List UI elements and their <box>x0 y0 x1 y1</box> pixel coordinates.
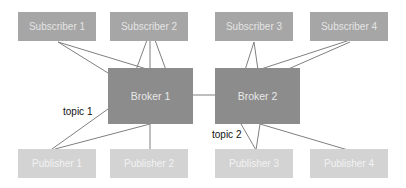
publisher-4-node[interactable]: Publisher 4 <box>310 149 388 178</box>
edge-sub1-broker1 <box>58 42 150 70</box>
publisher-2-label: Publisher 2 <box>124 158 174 169</box>
subscriber-4-label: Subscriber 4 <box>321 21 377 32</box>
subscriber-2-node[interactable]: Subscriber 2 <box>110 12 188 41</box>
publisher-1-node[interactable]: Publisher 1 <box>18 149 96 178</box>
edge-pub3-broker2 <box>241 124 256 150</box>
publisher-1-label: Publisher 1 <box>32 158 82 169</box>
broker-2-label: Broker 2 <box>238 90 278 102</box>
broker-1-node[interactable]: Broker 1 <box>108 68 193 124</box>
publisher-3-label: Publisher 3 <box>229 158 279 169</box>
edge-sub2-broker1 <box>136 40 147 70</box>
broker-2-node[interactable]: Broker 2 <box>215 68 300 124</box>
publisher-4-label: Publisher 4 <box>324 158 374 169</box>
publisher-2-node[interactable]: Publisher 2 <box>110 149 188 178</box>
publisher-3-node[interactable]: Publisher 3 <box>215 149 293 178</box>
subscriber-4-node[interactable]: Subscriber 4 <box>310 12 388 41</box>
topic-1-label: topic 1 <box>63 106 92 117</box>
edge-sub4-broker2 <box>258 40 350 70</box>
edge-sub3-broker2 <box>245 42 254 70</box>
edge-pub3-broker2 <box>256 124 260 150</box>
edge-sub3-broker2 <box>254 42 258 70</box>
edge-sub1-broker1 <box>58 42 108 73</box>
subscriber-1-label: Subscriber 1 <box>29 21 85 32</box>
subscriber-2-label: Subscriber 2 <box>121 21 177 32</box>
edge-pub4-broker2 <box>260 124 348 150</box>
topic-2-label: topic 2 <box>212 129 241 140</box>
edge-sub4-broker2 <box>286 42 350 70</box>
broker-1-label: Broker 1 <box>131 90 171 102</box>
edge-sub2-broker1 <box>155 40 166 70</box>
subscriber-3-label: Subscriber 3 <box>226 21 282 32</box>
subscriber-3-node[interactable]: Subscriber 3 <box>215 12 293 41</box>
subscriber-1-node[interactable]: Subscriber 1 <box>18 12 96 41</box>
